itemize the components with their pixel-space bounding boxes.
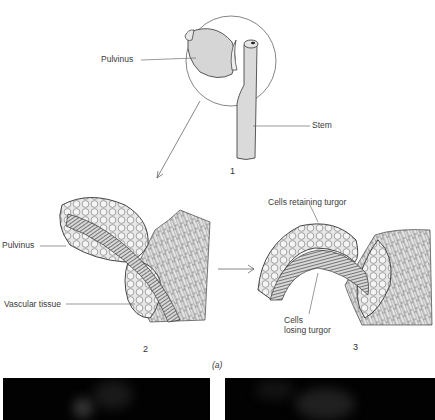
photo-left <box>3 378 210 420</box>
label-cells-retaining-turgor: Cells retaining turgor <box>268 198 346 207</box>
stem-shape <box>237 45 257 160</box>
panel-number-2: 2 <box>143 345 148 354</box>
diagram-artwork <box>0 0 435 420</box>
pulvinus-shape <box>188 29 235 78</box>
label-cells-losing-turgor-line1: Cells <box>284 316 303 325</box>
label-vascular-tissue: Vascular tissue <box>4 300 61 309</box>
panel-number-3: 3 <box>353 343 358 352</box>
panel-number-1: 1 <box>230 167 235 176</box>
panel-3-drawing <box>258 205 432 325</box>
panel-1-drawing <box>141 16 310 178</box>
label-pulvinus-1: Pulvinus <box>101 55 133 64</box>
photo-right <box>225 378 435 420</box>
panel-2-drawing <box>40 198 210 323</box>
figure-part-label: (a) <box>212 361 222 370</box>
transition-arrow <box>218 265 254 273</box>
label-cells-losing-turgor-line2: losing turgor <box>284 326 331 335</box>
label-pulvinus-2: Pulvinus <box>2 241 34 250</box>
label-stem: Stem <box>312 121 332 130</box>
